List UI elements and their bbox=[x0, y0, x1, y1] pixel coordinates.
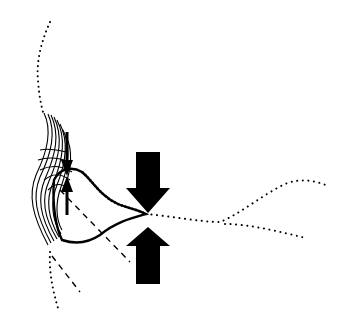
diagram-canvas bbox=[0, 0, 344, 324]
dashed-line-lower bbox=[52, 256, 80, 292]
right-dotted-outline bbox=[146, 180, 328, 222]
down-arrow-icon bbox=[126, 152, 170, 213]
dashed-line-upper bbox=[60, 190, 130, 262]
up-arrow-icon bbox=[126, 227, 170, 284]
lower-dotted-outline bbox=[50, 252, 58, 308]
upper-dotted-outline bbox=[38, 22, 50, 112]
right-dotted-branch bbox=[225, 224, 306, 238]
